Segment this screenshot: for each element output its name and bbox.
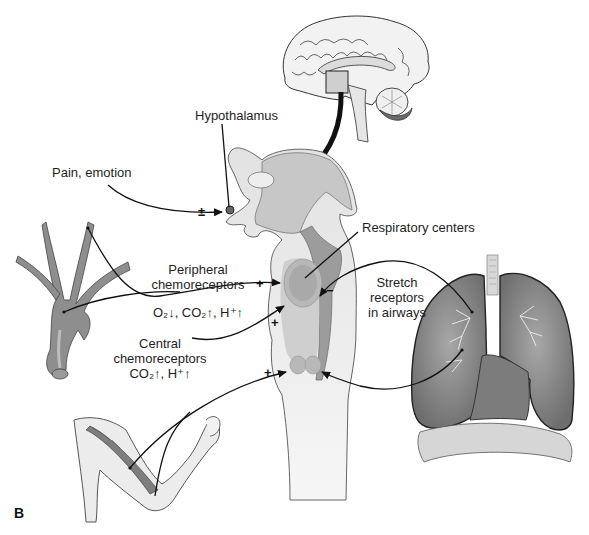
diagram-artwork — [0, 0, 589, 535]
brain-sagittal-illustration — [283, 16, 429, 142]
arm-illustration — [74, 417, 220, 522]
lungs-illustration — [412, 255, 574, 462]
plus-minus-sign: ± — [198, 205, 205, 218]
stretch-receptors-label-line3: in airways — [362, 305, 432, 320]
peripheral-plus-sign: + — [256, 277, 264, 290]
central-plus-sign: + — [271, 316, 279, 329]
stretch-receptors-label-line1: Stretch — [362, 275, 432, 290]
peripheral-stimuli-label: O₂↓, CO₂↑, H⁺↑ — [140, 305, 256, 320]
hypothalamus-leader-line — [222, 124, 229, 207]
stretch-minus-sign: − — [326, 284, 334, 297]
muscle-plus-sign: + — [264, 366, 272, 379]
central-chemoreceptors-label-line1: Central — [110, 336, 210, 351]
stretch-receptors-label-line2: receptors — [362, 290, 432, 305]
brainstem-illustration — [226, 148, 357, 500]
panel-label: B — [14, 505, 24, 521]
peripheral-chemoreceptors-label-line2: chemoreceptors — [148, 277, 248, 292]
respiratory-centers-label: Respiratory centers — [362, 220, 475, 235]
central-chemoreceptors-label-line2: chemoreceptors — [110, 351, 210, 366]
hypothalamus-label: Hypothalamus — [195, 108, 278, 123]
central-stimuli-label: CO₂↑, H⁺↑ — [110, 366, 210, 381]
peripheral-chemoreceptors-label-line1: Peripheral — [148, 262, 248, 277]
pain-emotion-label: Pain, emotion — [52, 165, 132, 180]
